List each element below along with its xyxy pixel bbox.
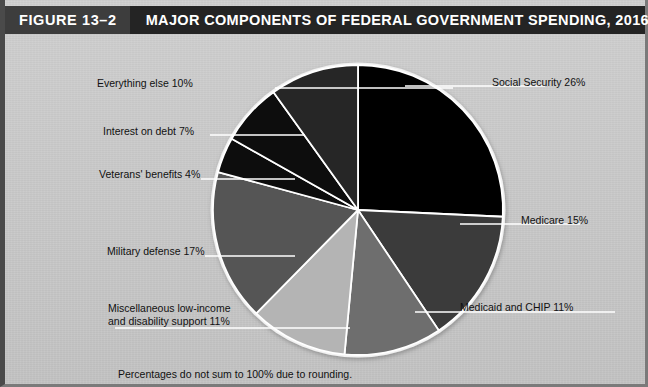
slice-label-social-security: Social Security 26% <box>492 76 585 89</box>
slice-label-miscellaneous-line2: and disability support 11% <box>108 315 231 328</box>
slice-label-medicaid-chip: Medicaid and CHIP 11% <box>460 301 573 314</box>
slice-label-military-defense: Military defense 17% <box>107 245 204 258</box>
figure-title: MAJOR COMPONENTS OF FEDERAL GOVERNMENT S… <box>130 6 648 34</box>
slice-label-medicare: Medicare 15% <box>521 214 588 227</box>
slice-label-miscellaneous-line1: Miscellaneous low-income <box>108 302 231 315</box>
figure-number-chip: FIGURE 13–2 <box>5 6 130 34</box>
figure-footnote: Percentages do not sum to 100% due to ro… <box>118 368 352 380</box>
slice-label-veterans-benefits: Veterans' benefits 4% <box>99 168 200 181</box>
figure-container: FIGURE 13–2 MAJOR COMPONENTS OF FEDERAL … <box>0 0 648 387</box>
slice-label-miscellaneous: Miscellaneous low-income and disability … <box>108 302 231 328</box>
figure-header-bar: FIGURE 13–2 MAJOR COMPONENTS OF FEDERAL … <box>5 6 645 34</box>
slice-label-everything-else: Everything else 10% <box>97 77 193 90</box>
pie-chart-area: Everything else 10% Interest on debt 7% … <box>5 34 648 387</box>
slice-label-interest-on-debt: Interest on debt 7% <box>103 125 194 138</box>
